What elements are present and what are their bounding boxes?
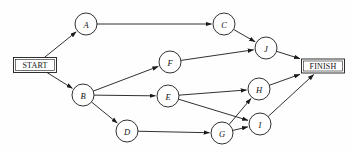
node-f[interactable]: F	[159, 51, 181, 73]
node-label-h: H	[255, 85, 263, 95]
edge-i-to-finish	[268, 75, 314, 117]
node-layer: ACJFBEHIGD	[72, 13, 277, 144]
node-label-a: A	[82, 20, 89, 30]
terminal-finish[interactable]: FINISH	[302, 59, 345, 73]
node-label-d: D	[123, 127, 131, 137]
edge-j-to-finish	[276, 51, 300, 58]
node-b[interactable]: B	[72, 84, 94, 106]
node-e[interactable]: E	[157, 85, 179, 107]
edge-b-to-f	[93, 66, 158, 91]
edge-g-to-i	[233, 127, 248, 131]
node-j[interactable]: J	[255, 37, 277, 59]
edge-e-to-h	[179, 90, 247, 95]
edge-c-to-j	[234, 29, 256, 41]
edge-h-to-finish	[269, 74, 300, 85]
node-label-f: F	[166, 58, 173, 68]
node-label-c: C	[221, 20, 227, 30]
terminal-start[interactable]: START	[14, 58, 57, 73]
network-diagram-canvas: ACJFBEHIGD STARTFINISH	[0, 0, 353, 152]
terminal-label-start: START	[22, 61, 47, 70]
edge-b-to-d	[92, 102, 118, 123]
edge-start-to-a	[44, 32, 76, 58]
node-d[interactable]: D	[116, 120, 138, 142]
edge-start-to-b	[47, 73, 72, 89]
node-a[interactable]: A	[75, 13, 97, 35]
node-h[interactable]: H	[248, 78, 270, 100]
node-c[interactable]: C	[213, 13, 235, 35]
edge-f-to-j	[181, 50, 254, 61]
node-g[interactable]: G	[211, 122, 233, 144]
node-label-e: E	[164, 92, 171, 102]
node-i[interactable]: I	[249, 113, 271, 135]
edge-b-to-e	[94, 95, 156, 96]
edge-d-to-g	[138, 131, 210, 133]
node-label-g: G	[219, 129, 225, 139]
terminal-label-finish: FINISH	[310, 62, 337, 71]
node-label-b: B	[80, 91, 85, 101]
edge-e-to-i	[179, 99, 249, 120]
network-diagram: ACJFBEHIGD STARTFINISH	[0, 0, 353, 152]
